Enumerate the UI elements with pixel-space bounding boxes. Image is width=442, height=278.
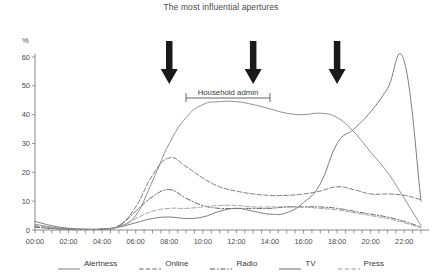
y-tick-label: 20 (22, 168, 30, 177)
legend-item-alertness[interactable]: Alertness (58, 259, 117, 268)
legend-label: Online (165, 259, 188, 268)
x-tick-label: 06:00 (127, 237, 145, 246)
chart-annotations: Household admin (161, 41, 346, 102)
legend-swatch-radio-icon (210, 259, 232, 267)
x-tick-label: 02:00 (59, 237, 77, 246)
annotation-bracket-household-admin: Household admin (186, 88, 270, 103)
legend-label: Press (364, 259, 384, 268)
series-line-tv (35, 54, 421, 230)
x-tick-label: 00:00 (26, 237, 44, 246)
series-lines (35, 54, 421, 230)
annotation-bracket-label: Household admin (198, 88, 259, 97)
legend-swatch-tv-icon (279, 259, 301, 267)
y-axis: 0102030405060 (22, 53, 35, 235)
y-tick-label: 40 (22, 110, 30, 119)
legend-item-radio[interactable]: Radio (210, 259, 257, 268)
x-tick-label: 10:00 (194, 237, 212, 246)
legend-swatch-online-icon (139, 259, 161, 267)
x-tick-label: 14:00 (261, 237, 279, 246)
down-arrow-icon-1 (161, 41, 178, 84)
x-tick-label: 18:00 (328, 237, 346, 246)
chart-page: The most influential apertures % 0102030… (0, 0, 442, 278)
y-tick-label: 60 (22, 53, 30, 62)
legend-item-tv[interactable]: TV (279, 259, 315, 268)
legend-item-press[interactable]: Press (338, 259, 384, 268)
legend-label: Alertness (84, 259, 117, 268)
y-tick-label: 30 (22, 139, 30, 148)
x-tick-label: 12:00 (227, 237, 245, 246)
legend-swatch-alertness-icon (58, 259, 80, 267)
legend-label: Radio (236, 259, 257, 268)
y-tick-label: 10 (22, 197, 30, 206)
series-line-online (35, 158, 421, 230)
chart-plot-area: 0102030405060 00:0002:0004:0006:0008:001… (0, 0, 442, 252)
chart-legend: AlertnessOnlineRadioTVPress (0, 252, 442, 274)
x-tick-label: 08:00 (160, 237, 178, 246)
x-tick-label: 04:00 (93, 237, 111, 246)
x-tick-label: 16:00 (294, 237, 312, 246)
legend-swatch-press-icon (338, 259, 360, 267)
x-axis: 00:0002:0004:0006:0008:0010:0012:0014:00… (26, 230, 429, 246)
down-arrow-icon-3 (329, 41, 346, 84)
x-tick-label: 20:00 (362, 237, 380, 246)
y-tick-label: 0 (26, 226, 30, 235)
legend-item-online[interactable]: Online (139, 259, 188, 268)
legend-label: TV (305, 259, 315, 268)
down-arrow-icon-2 (245, 41, 262, 84)
x-tick-label: 22:00 (395, 237, 413, 246)
y-tick-label: 50 (22, 81, 30, 90)
